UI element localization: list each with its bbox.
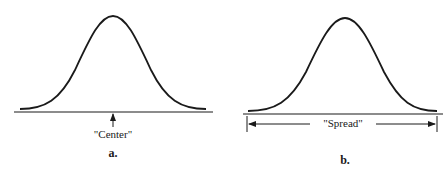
panel-b-caption: b. — [340, 153, 350, 168]
panel-a-caption: a. — [109, 146, 118, 161]
spread-label: "Spread" — [320, 117, 366, 129]
bell-curve-b — [248, 18, 437, 111]
center-label: "Center" — [91, 128, 135, 140]
figure — [0, 0, 446, 172]
panel-a — [14, 16, 213, 127]
panel-b — [243, 18, 443, 132]
bell-curve-a — [20, 16, 206, 109]
